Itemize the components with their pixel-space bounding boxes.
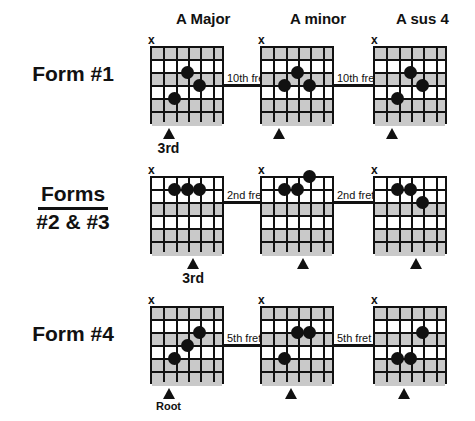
fret-connector — [334, 201, 373, 204]
string-line — [213, 308, 215, 382]
string-marker-icon — [297, 258, 309, 269]
string-line — [386, 48, 388, 122]
mute-string-icon: x — [258, 295, 265, 305]
column-title-1: A Major — [176, 10, 230, 27]
string-line — [176, 308, 178, 382]
fret-label: 2nd fret — [336, 189, 375, 201]
string-marker-icon — [398, 388, 410, 399]
mute-string-icon: x — [258, 35, 265, 45]
string-line — [411, 48, 413, 122]
finger-dot — [391, 352, 404, 365]
finger-dot — [181, 339, 194, 352]
string-line — [386, 178, 388, 252]
finger-dot — [404, 183, 417, 196]
chord-diagram — [260, 46, 334, 124]
string-marker-icon — [410, 258, 422, 269]
finger-dot — [404, 352, 417, 365]
fretboard-grid — [260, 46, 334, 124]
finger-dot — [278, 79, 291, 92]
mute-string-icon: x — [148, 295, 155, 305]
chord-chart: A MajorA minorA sus 4Form #110th fret10t… — [0, 0, 475, 421]
mute-string-icon: x — [258, 165, 265, 175]
finger-dot — [168, 183, 181, 196]
string-marker-icon — [163, 388, 175, 399]
chord-diagram — [373, 46, 447, 124]
string-line — [273, 308, 275, 382]
chord-diagram — [260, 176, 334, 254]
marker-label: 3rd — [182, 270, 204, 286]
string-line — [436, 308, 438, 382]
form-label-2: Forms#2 & #3 — [4, 182, 142, 234]
fretboard-grid — [373, 46, 447, 124]
string-line — [200, 308, 202, 382]
string-line — [163, 48, 165, 122]
fret-connector — [224, 344, 260, 347]
string-line — [323, 48, 325, 122]
finger-dot — [168, 352, 181, 365]
finger-dot — [193, 326, 206, 339]
column-title-2: A minor — [290, 10, 346, 27]
string-line — [323, 178, 325, 252]
string-line — [188, 48, 190, 122]
mute-string-icon: x — [148, 165, 155, 175]
finger-dot — [303, 79, 316, 92]
string-line — [386, 308, 388, 382]
finger-dot — [291, 326, 304, 339]
string-line — [213, 48, 215, 122]
string-line — [163, 308, 165, 382]
fretboard-grid — [373, 306, 447, 384]
string-line — [436, 48, 438, 122]
form-label-line2: #2 & #3 — [4, 210, 142, 234]
mute-string-icon: x — [371, 295, 378, 305]
finger-dot — [291, 183, 304, 196]
finger-dot — [193, 183, 206, 196]
finger-dot — [416, 326, 429, 339]
form-label-line1: Form #4 — [4, 322, 142, 346]
fret-label: 5th fret — [226, 332, 262, 344]
string-line — [399, 308, 401, 382]
finger-dot — [168, 92, 181, 105]
mute-string-icon: x — [148, 35, 155, 45]
finger-dot — [391, 183, 404, 196]
form-label-1: Form #1 — [4, 62, 142, 86]
string-line — [213, 178, 215, 252]
fret-connector — [334, 344, 373, 347]
string-line — [423, 308, 425, 382]
marker-label: Root — [156, 400, 181, 412]
fret-connector — [334, 84, 373, 87]
string-line — [399, 48, 401, 122]
fret-connector — [224, 201, 260, 204]
string-marker-icon — [285, 388, 297, 399]
finger-dot — [278, 183, 291, 196]
string-marker-icon — [386, 128, 398, 139]
finger-dot — [416, 196, 429, 209]
string-line — [176, 48, 178, 122]
finger-dot — [181, 183, 194, 196]
string-line — [310, 308, 312, 382]
marker-label: 3rd — [158, 140, 180, 156]
fretboard-grid — [150, 46, 224, 124]
string-line — [323, 308, 325, 382]
form-label-3: Form #4 — [4, 322, 142, 346]
string-line — [423, 178, 425, 252]
chord-diagram — [150, 176, 224, 254]
chord-diagram — [373, 176, 447, 254]
fret-label: 5th fret — [336, 332, 372, 344]
finger-dot — [291, 66, 304, 79]
string-line — [298, 48, 300, 122]
finger-dot — [303, 326, 316, 339]
string-line — [273, 178, 275, 252]
string-line — [273, 48, 275, 122]
form-label-line1: Forms — [38, 182, 108, 210]
string-marker-icon — [187, 258, 199, 269]
finger-dot — [278, 352, 291, 365]
finger-dot — [416, 79, 429, 92]
string-line — [286, 308, 288, 382]
string-marker-icon — [273, 128, 285, 139]
string-line — [411, 308, 413, 382]
column-title-3: A sus 4 — [396, 10, 449, 27]
string-line — [163, 178, 165, 252]
finger-dot — [193, 79, 206, 92]
fretboard-grid — [260, 306, 334, 384]
string-line — [298, 308, 300, 382]
